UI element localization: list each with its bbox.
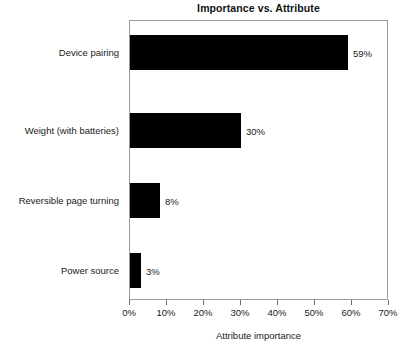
xtick-label-70: 70%	[371, 307, 405, 318]
bar-value-reversible-page-turning: 8%	[160, 195, 179, 206]
xtick-mark	[351, 300, 352, 305]
bar-power-source	[130, 253, 141, 288]
bar-row: 59%	[130, 35, 406, 70]
bar-value-weight: 30%	[241, 125, 265, 136]
category-label-weight: Weight (with batteries)	[0, 125, 124, 136]
xtick-mark	[203, 300, 204, 305]
bar-device-pairing	[130, 35, 348, 70]
x-axis-title: Attribute importance	[129, 330, 388, 341]
bar-reversible-page-turning	[130, 183, 160, 218]
bar-row: 3%	[130, 253, 406, 288]
xtick-label-30: 30%	[223, 307, 257, 318]
xtick-label-10: 10%	[149, 307, 183, 318]
bar-value-power-source: 3%	[141, 265, 160, 276]
bar-row: 30%	[130, 113, 406, 148]
xtick-label-50: 50%	[297, 307, 331, 318]
xtick-mark	[166, 300, 167, 305]
xtick-mark	[314, 300, 315, 305]
category-label-device-pairing: Device pairing	[0, 47, 124, 58]
bar-weight	[130, 113, 241, 148]
xtick-label-60: 60%	[334, 307, 368, 318]
xtick-mark	[277, 300, 278, 305]
xtick-mark	[388, 300, 389, 305]
chart-title: Importance vs. Attribute	[129, 2, 388, 14]
bar-chart: Importance vs. Attribute Device pairing …	[0, 0, 406, 354]
xtick-label-0: 0%	[112, 307, 146, 318]
xtick-label-40: 40%	[260, 307, 294, 318]
xtick-mark	[129, 300, 130, 305]
category-label-power-source: Power source	[0, 265, 124, 276]
category-label-reversible-page-turning: Reversible page turning	[0, 195, 124, 206]
bar-row: 8%	[130, 183, 406, 218]
xtick-label-20: 20%	[186, 307, 220, 318]
xtick-mark	[240, 300, 241, 305]
bar-value-device-pairing: 59%	[348, 47, 372, 58]
